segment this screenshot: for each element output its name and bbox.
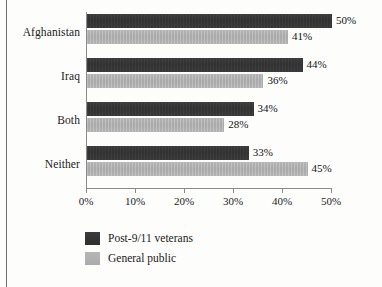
bar-iraq-veterans[interactable] bbox=[87, 58, 303, 72]
chart-legend: Post-9/11 veterans General public bbox=[85, 228, 193, 268]
x-axis-tick bbox=[233, 189, 234, 193]
x-axis-line bbox=[86, 188, 332, 189]
bar-value-neither-public: 45% bbox=[312, 162, 332, 174]
bar-value-iraq-veterans: 44% bbox=[307, 58, 327, 70]
category-label-neither: Neither bbox=[0, 158, 80, 170]
x-axis-tick-label-0: 0% bbox=[79, 195, 94, 207]
legend-swatch-icon-veterans bbox=[85, 232, 100, 245]
bar-value-both-veterans: 34% bbox=[258, 102, 278, 114]
legend-swatch-icon-public bbox=[85, 252, 100, 265]
x-axis-tick bbox=[282, 189, 283, 193]
x-axis-tick-label-30: 30% bbox=[223, 195, 243, 207]
category-label-afghanistan: Afghanistan bbox=[0, 26, 80, 38]
bar-both-veterans[interactable] bbox=[87, 102, 254, 116]
legend-item-public[interactable]: General public bbox=[85, 248, 193, 268]
legend-label-public: General public bbox=[108, 252, 176, 264]
x-axis-tick bbox=[135, 189, 136, 193]
bar-neither-veterans[interactable] bbox=[87, 146, 249, 160]
bar-afghanistan-public[interactable] bbox=[87, 30, 288, 44]
legend-label-veterans: Post-9/11 veterans bbox=[108, 232, 193, 244]
bar-value-neither-veterans: 33% bbox=[253, 146, 273, 158]
bar-value-both-public: 28% bbox=[228, 118, 248, 130]
bar-afghanistan-veterans[interactable] bbox=[87, 14, 332, 28]
bar-value-iraq-public: 36% bbox=[267, 74, 287, 86]
bar-both-public[interactable] bbox=[87, 118, 224, 132]
x-axis-tick bbox=[86, 189, 87, 193]
bar-value-afghanistan-veterans: 50% bbox=[336, 14, 356, 26]
bar-iraq-public[interactable] bbox=[87, 74, 263, 88]
category-label-both: Both bbox=[0, 114, 80, 126]
x-axis-tick-label-50: 50% bbox=[321, 195, 341, 207]
bar-neither-public[interactable] bbox=[87, 162, 308, 176]
x-axis-tick-label-20: 20% bbox=[174, 195, 194, 207]
legend-item-veterans[interactable]: Post-9/11 veterans bbox=[85, 228, 193, 248]
bar-value-afghanistan-public: 41% bbox=[292, 30, 312, 42]
x-axis-tick-label-40: 40% bbox=[272, 195, 292, 207]
x-axis-tick bbox=[331, 189, 332, 193]
grouped-bar-chart: Afghanistan Iraq Both Neither 0% 10% 20%… bbox=[0, 0, 382, 287]
x-axis-tick bbox=[184, 189, 185, 193]
x-axis-tick-label-10: 10% bbox=[125, 195, 145, 207]
category-label-iraq: Iraq bbox=[0, 70, 80, 82]
